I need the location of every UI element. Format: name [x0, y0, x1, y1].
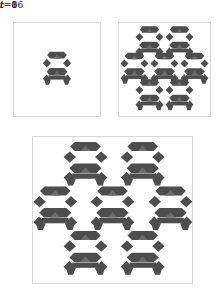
- motif-shoulder-right: [152, 151, 164, 162]
- loop-motif-5: [135, 79, 163, 110]
- motif-shoulder-left: [149, 196, 161, 207]
- loop-motif-0: [64, 142, 108, 186]
- figure-container: t=0 t=8 t=16: [0, 0, 224, 300]
- motif-foot-left: [66, 268, 76, 275]
- motif-shoulder-left: [43, 59, 51, 68]
- panel-t0: [13, 22, 101, 117]
- motif-shoulder-left: [135, 33, 143, 41]
- motif-bottom-bar: [42, 218, 68, 223]
- motif-bottom-bar: [99, 218, 125, 223]
- motif-shoulder-right: [201, 60, 209, 68]
- motif-shoulder-left: [64, 151, 76, 162]
- loop-motif-1: [121, 142, 165, 186]
- motif-foot-left: [151, 223, 161, 230]
- motif-bottom-bar: [171, 49, 188, 53]
- motif-shoulder-right: [156, 33, 164, 41]
- motif-shoulder-left: [181, 60, 189, 68]
- panel-t8-plot: [119, 23, 210, 116]
- panel-label-t16-value: 16: [12, 0, 24, 10]
- motif-foot-right: [201, 79, 207, 84]
- panel-t16-plot: [33, 137, 192, 283]
- motif-shoulder-right: [95, 240, 107, 251]
- panel-t16: [32, 136, 193, 284]
- panel-label-t16: t=16: [0, 0, 23, 10]
- motif-bottom-bar: [48, 76, 65, 80]
- motif-shoulder-left: [151, 60, 159, 68]
- motif-shoulder-right: [186, 33, 194, 41]
- motif-shoulder-right: [122, 196, 134, 207]
- motif-bottom-bar: [157, 218, 183, 223]
- motif-bottom-bar: [171, 102, 188, 106]
- loop-motif-2: [120, 53, 148, 84]
- loop-motif-3: [91, 186, 135, 230]
- motif-foot-left: [36, 223, 46, 230]
- motif-foot-right: [122, 223, 132, 230]
- motif-shoulder-right: [171, 60, 179, 68]
- loop-motif-3: [151, 53, 179, 84]
- panel-label-t16-equals: =: [4, 0, 12, 10]
- loop-motif-2: [33, 186, 77, 230]
- loop-motif-6: [121, 231, 165, 275]
- motif-bottom-bar: [126, 75, 143, 79]
- loop-motif-0: [43, 52, 71, 85]
- motif-shoulder-right: [65, 196, 77, 207]
- motif-foot-right: [156, 105, 162, 110]
- motif-bottom-bar: [141, 49, 158, 53]
- motif-shoulder-right: [95, 151, 107, 162]
- motif-foot-left: [123, 179, 133, 186]
- motif-foot-right: [95, 268, 105, 275]
- motif-foot-right: [65, 223, 75, 230]
- motif-shoulder-right: [156, 86, 164, 94]
- motif-shoulder-left: [166, 86, 174, 94]
- motif-bottom-bar: [72, 263, 98, 268]
- motif-shoulder-right: [186, 86, 194, 94]
- motif-shoulder-left: [33, 196, 45, 207]
- panel-t8: [118, 22, 211, 117]
- motif-foot-right: [152, 179, 162, 186]
- motif-shoulder-left: [135, 86, 143, 94]
- motif-shoulder-left: [91, 196, 103, 207]
- motif-shoulder-right: [180, 196, 192, 207]
- motif-foot-left: [123, 268, 133, 275]
- loop-motif-1: [166, 26, 194, 57]
- motif-foot-left: [167, 105, 173, 110]
- motif-bottom-bar: [156, 75, 173, 79]
- motif-foot-right: [180, 223, 190, 230]
- motif-foot-right: [63, 80, 69, 85]
- motif-foot-left: [93, 223, 103, 230]
- motif-foot-left: [122, 79, 128, 84]
- motif-foot-left: [66, 179, 76, 186]
- panel-t0-plot: [14, 23, 100, 116]
- motif-foot-left: [44, 80, 50, 85]
- motif-shoulder-left: [64, 240, 76, 251]
- motif-bottom-bar: [129, 173, 155, 178]
- loop-motif-5: [64, 231, 108, 275]
- loop-motif-4: [181, 53, 209, 84]
- motif-bottom-bar: [129, 263, 155, 268]
- loop-motif-6: [166, 79, 194, 110]
- motif-shoulder-left: [121, 240, 133, 251]
- loop-motif-4: [149, 186, 192, 230]
- motif-foot-right: [95, 179, 105, 186]
- loop-motif-0: [135, 26, 163, 57]
- motif-shoulder-right: [63, 59, 71, 68]
- motif-bottom-bar: [186, 75, 203, 79]
- motif-shoulder-right: [152, 240, 164, 251]
- motif-shoulder-left: [166, 33, 174, 41]
- motif-foot-right: [152, 268, 162, 275]
- motif-foot-left: [137, 105, 143, 110]
- motif-shoulder-right: [141, 60, 149, 68]
- motif-bottom-bar: [141, 102, 158, 106]
- motif-shoulder-left: [120, 60, 128, 68]
- motif-bottom-bar: [72, 173, 98, 178]
- motif-foot-right: [186, 105, 192, 110]
- motif-shoulder-left: [121, 151, 133, 162]
